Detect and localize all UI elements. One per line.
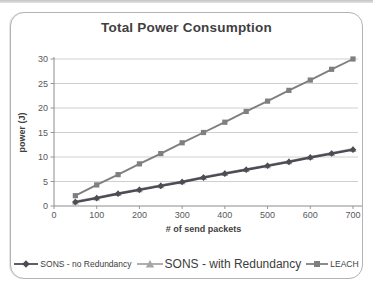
x-tick-label: 500 xyxy=(260,210,275,220)
triangle-marker-icon xyxy=(137,259,163,269)
legend-label: SONS - with Redundancy xyxy=(165,257,302,271)
legend-item-sons-with-redundancy: SONS - with Redundancy xyxy=(137,257,302,271)
figure-canvas: Total Power Consumption 0510152025300100… xyxy=(0,0,373,286)
y-tick-label: 15 xyxy=(38,128,48,138)
power-consumption-plot: 0510152025300100200300400500600700# of s… xyxy=(11,13,362,253)
legend-label: SONS - no Redundancy xyxy=(40,259,131,269)
y-tick-label: 25 xyxy=(38,79,48,89)
x-axis-label: # of send packets xyxy=(166,224,242,234)
legend-item-sons-no-redundancy: SONS - no Redundancy xyxy=(14,259,131,269)
legend-item-leach: LEACH xyxy=(306,259,358,269)
chart-frame: Total Power Consumption 0510152025300100… xyxy=(10,12,363,279)
square-marker-icon xyxy=(306,259,328,269)
y-axis-label: power (J) xyxy=(17,112,27,152)
y-tick-label: 20 xyxy=(38,103,48,113)
x-tick-label: 100 xyxy=(89,210,104,220)
x-tick-label: 0 xyxy=(51,210,56,220)
y-tick-label: 0 xyxy=(43,201,48,211)
x-tick-label: 600 xyxy=(303,210,318,220)
page-scan-strip xyxy=(0,0,373,3)
y-tick-label: 30 xyxy=(38,54,48,64)
x-tick-label: 300 xyxy=(175,210,190,220)
legend-label: LEACH xyxy=(330,259,358,269)
x-tick-label: 400 xyxy=(217,210,232,220)
x-tick-label: 200 xyxy=(132,210,147,220)
gridlines xyxy=(54,59,358,182)
x-tick-label: 700 xyxy=(345,210,360,220)
series-leach xyxy=(73,56,356,198)
y-tick-label: 5 xyxy=(43,177,48,187)
chart-legend: SONS - no Redundancy SONS - with Redunda… xyxy=(11,256,362,272)
y-tick-label: 10 xyxy=(38,152,48,162)
diamond-marker-icon xyxy=(14,259,38,269)
